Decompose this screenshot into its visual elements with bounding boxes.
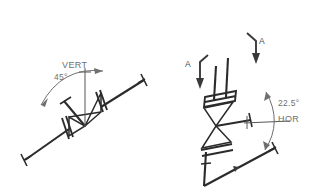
left-pipe-upper [101, 74, 147, 107]
left-pipe-lower-line [25, 129, 69, 160]
left-pipe-lower [21, 129, 69, 166]
left-angle-arc [41, 70, 103, 105]
left-pipe-upper-line [101, 80, 144, 107]
drawing-canvas: VERT 45° [0, 0, 316, 193]
right-angle-arc [265, 92, 274, 150]
right-pipe-lower-vertical-line [204, 152, 206, 186]
left-reference-label: VERT [62, 60, 88, 70]
section-mark-a-right-arrow [252, 53, 260, 64]
section-mark-a-left-label: A [185, 59, 191, 69]
left-angle-label: 45° [54, 72, 68, 82]
section-mark-a-left-leader [200, 55, 208, 82]
section-mark-a-right: A [247, 33, 265, 64]
right-pipe-lower-vertical-tick [201, 163, 211, 164]
left-valve-triangle-upper [85, 93, 101, 126]
right-pipe-lower-vertical [201, 152, 211, 186]
right-pipe-lower-diagonal [204, 142, 278, 186]
left-angle-arrow-end [94, 68, 103, 74]
section-mark-a-left-arrow [196, 78, 204, 89]
valve-orientation-drawing: VERT 45° [0, 0, 316, 193]
right-reference-label: HOR [278, 114, 299, 124]
right-detail-group: 22.5° HOR A A [185, 33, 299, 186]
section-mark-a-left: A [185, 55, 208, 89]
section-mark-a-right-label: A [259, 36, 265, 46]
right-angle-label: 22.5° [278, 98, 299, 108]
right-pipe-upper-line-a [226, 58, 228, 97]
left-flange-lower [62, 116, 73, 139]
left-detail-group: VERT 45° [21, 60, 147, 166]
